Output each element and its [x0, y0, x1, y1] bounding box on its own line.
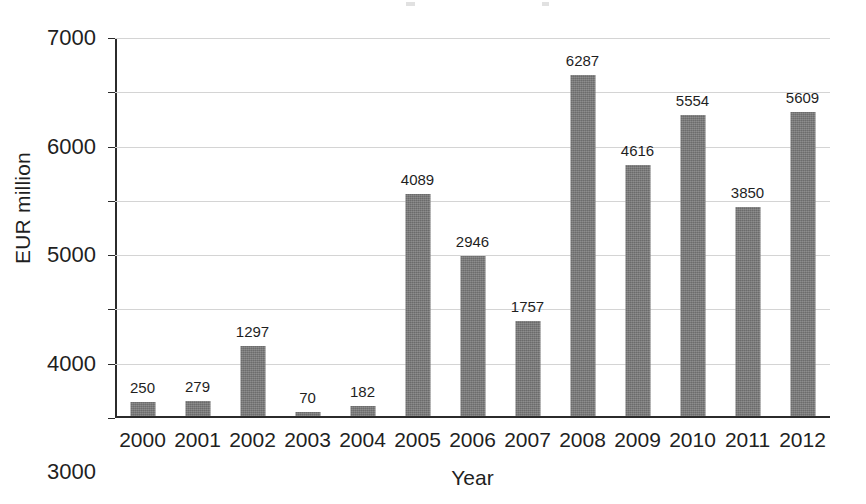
x-tick-label: 2007: [500, 428, 555, 452]
bar-value-label: 5554: [676, 92, 709, 109]
y-tick-label: 6000: [47, 134, 96, 160]
bar-value-label: 250: [130, 379, 155, 396]
y-tick-mark: 1000: [108, 364, 115, 365]
bar-slot: 250: [115, 38, 170, 416]
x-tick-label: 2011: [720, 428, 775, 452]
bar-value-label: 1297: [236, 323, 269, 340]
bar-value-label: 2946: [456, 233, 489, 250]
bar-chart: EUR million 0100020003000400050006000700…: [0, 0, 866, 504]
bar[interactable]: [240, 346, 265, 416]
bar-slot: 5554: [665, 38, 720, 416]
x-axis-ticks: 2000200120022003200420052006200720082009…: [115, 428, 830, 458]
x-tick-label: 2004: [335, 428, 390, 452]
y-axis-title: EUR million: [11, 128, 35, 288]
x-axis-title: Year: [115, 466, 830, 490]
bar-slot: 4089: [390, 38, 445, 416]
bar-value-label: 1757: [511, 298, 544, 315]
bars-group: 2502791297701824089294617576287461655543…: [115, 38, 830, 416]
bar-value-label: 279: [185, 378, 210, 395]
x-tick-label: 2002: [225, 428, 280, 452]
x-tick-label: 2001: [170, 428, 225, 452]
bar-slot: 4616: [610, 38, 665, 416]
x-tick-label: 2006: [445, 428, 500, 452]
bar-slot: 5609: [775, 38, 830, 416]
bar[interactable]: [680, 115, 705, 417]
bar-slot: 6287: [555, 38, 610, 416]
bar-slot: 2946: [445, 38, 500, 416]
x-tick-label: 2010: [665, 428, 720, 452]
bar-slot: 1757: [500, 38, 555, 416]
y-tick-label: 4000: [47, 351, 96, 377]
bar-slot: 70: [280, 38, 335, 416]
y-tick-mark: 2000: [108, 309, 115, 310]
bar-slot: 182: [335, 38, 390, 416]
x-tick-label: 2003: [280, 428, 335, 452]
x-tick-label: 2012: [775, 428, 830, 452]
bar[interactable]: [350, 406, 375, 416]
y-tick-label: 7000: [47, 25, 96, 51]
y-tick-mark: 3000: [108, 255, 115, 256]
bar[interactable]: [405, 194, 430, 416]
cropped-caption-artifact: [542, 2, 549, 6]
bar[interactable]: [295, 412, 320, 416]
x-tick-label: 2009: [610, 428, 665, 452]
plot-area: 01000200030004000500060007000 2502791297…: [115, 38, 830, 418]
bar[interactable]: [515, 321, 540, 416]
x-tick-label: 2008: [555, 428, 610, 452]
bar[interactable]: [570, 75, 595, 416]
y-tick-mark: 5000: [108, 147, 115, 148]
bar-slot: 1297: [225, 38, 280, 416]
bar-value-label: 3850: [731, 184, 764, 201]
bar[interactable]: [130, 402, 155, 416]
bar-value-label: 182: [350, 383, 375, 400]
x-tick-label: 2005: [390, 428, 445, 452]
bar-value-label: 5609: [786, 89, 819, 106]
bar[interactable]: [735, 207, 760, 416]
bar-value-label: 70: [299, 389, 316, 406]
y-tick-mark: 6000: [108, 92, 115, 93]
bar-value-label: 4089: [401, 171, 434, 188]
cropped-caption-artifact: [406, 2, 415, 6]
y-tick-mark: 0: [108, 418, 115, 419]
bar[interactable]: [460, 256, 485, 416]
bar-value-label: 6287: [566, 52, 599, 69]
y-tick-label: 3000: [47, 459, 96, 485]
y-tick-label: 5000: [47, 242, 96, 268]
bar[interactable]: [185, 401, 210, 416]
y-tick-mark: 7000: [108, 38, 115, 39]
bar-value-label: 4616: [621, 142, 654, 159]
bar-slot: 3850: [720, 38, 775, 416]
bar[interactable]: [625, 165, 650, 416]
x-axis-line: [115, 416, 830, 418]
x-tick-label: 2000: [115, 428, 170, 452]
y-tick-mark: 4000: [108, 201, 115, 202]
bar-slot: 279: [170, 38, 225, 416]
bar[interactable]: [790, 112, 815, 416]
